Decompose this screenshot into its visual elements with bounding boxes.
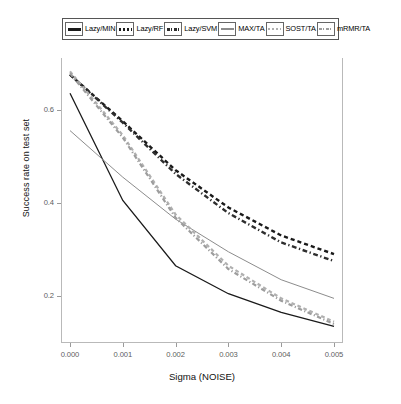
legend-swatch-icon	[317, 22, 335, 36]
legend-item-lazy-min[interactable]: Lazy/MIN	[65, 19, 116, 39]
y-tick-label: 0.6	[28, 105, 54, 114]
x-tick-mark	[176, 343, 177, 347]
y-axis-label: Success rate on test set	[21, 98, 31, 238]
x-tick-mark	[228, 343, 229, 347]
series-line-lazy-rf	[70, 75, 334, 254]
legend-swatch-icon	[218, 22, 236, 36]
plot-area	[61, 58, 343, 343]
x-tick-label: 0.001	[103, 350, 143, 359]
legend-label: Lazy/MIN	[84, 25, 116, 32]
x-tick-label: 0.000	[50, 350, 90, 359]
chart-figure: Lazy/MINLazy/RFLazy/SVMMAX/TASOST/TAmRMR…	[0, 0, 401, 404]
x-axis-label: Sigma (NOISE)	[61, 371, 343, 382]
series-line-lazy-min	[70, 93, 334, 326]
legend-label: Lazy/SVM	[183, 25, 218, 32]
legend-swatch-icon	[65, 22, 83, 36]
legend-swatch-icon	[266, 22, 284, 36]
legend-label: MAX/TA	[237, 25, 265, 32]
legend-label: Lazy/RF	[135, 25, 164, 32]
legend-item-sost-ta[interactable]: SOST/TA	[266, 19, 317, 39]
legend-swatch-icon	[116, 22, 134, 36]
legend-swatch-icon	[164, 22, 182, 36]
y-tick-label: 0.2	[28, 291, 54, 300]
series-lines	[61, 58, 343, 343]
series-line-lazy-svm	[70, 75, 334, 261]
legend-item-lazy-svm[interactable]: Lazy/SVM	[164, 19, 218, 39]
y-tick-label: 0.4	[28, 198, 54, 207]
x-tick-mark	[334, 343, 335, 347]
x-tick-label: 0.005	[314, 350, 354, 359]
x-tick-mark	[123, 343, 124, 347]
x-tick-label: 0.003	[208, 350, 248, 359]
x-tick-label: 0.004	[261, 350, 301, 359]
x-tick-mark	[70, 343, 71, 347]
chart-legend: Lazy/MINLazy/RFLazy/SVMMAX/TASOST/TAmRMR…	[62, 18, 339, 40]
x-tick-label: 0.002	[156, 350, 196, 359]
legend-item-lazy-rf[interactable]: Lazy/RF	[116, 19, 164, 39]
legend-label: mRMR/TA	[336, 25, 371, 32]
legend-label: SOST/TA	[285, 25, 317, 32]
x-tick-mark	[281, 343, 282, 347]
legend-item-mrmr-ta[interactable]: mRMR/TA	[317, 19, 371, 39]
legend-item-max-ta[interactable]: MAX/TA	[218, 19, 265, 39]
series-line-max-ta	[70, 131, 334, 299]
